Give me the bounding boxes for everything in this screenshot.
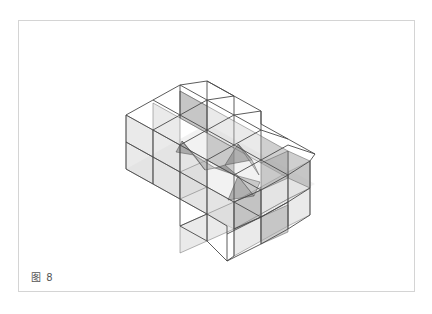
- isometric-cube-grid-diagram: [0, 0, 432, 314]
- figure-caption: 图 8: [31, 269, 54, 284]
